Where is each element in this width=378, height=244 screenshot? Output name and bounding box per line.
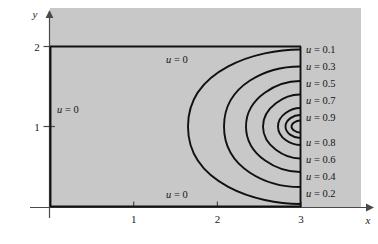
contour-label-0.2: u = 0.2 (306, 188, 336, 199)
contour-label-0.8: u = 0.8 (306, 137, 336, 148)
contour-label-0.1: u = 0.1 (306, 44, 336, 55)
y-tick-label-1: 1 (34, 121, 40, 133)
boundary-label-left-rest: = 0 (62, 104, 78, 115)
contour-plot-svg: y x 1 2 3 1 2 u = 0 u = 0 u = 0 u = 0.1 … (0, 0, 378, 244)
contour-label-0.4: u = 0.4 (306, 171, 336, 182)
y-axis-label: y (32, 8, 38, 20)
x-tick-label-1: 1 (131, 213, 137, 225)
contour-label-0.5: u = 0.5 (306, 78, 336, 89)
y-tick-label-2: 2 (34, 41, 40, 53)
contour-label-0.7: u = 0.7 (306, 95, 336, 106)
contour-label-0.8-rest: = 0.8 (311, 137, 335, 148)
boundary-label-top-rest: = 0 (171, 54, 187, 65)
x-axis-label: x (365, 214, 371, 226)
boundary-label-bottom-rest: = 0 (171, 189, 187, 200)
contour-label-0.7-rest: = 0.7 (311, 95, 335, 106)
contour-label-0.2-rest: = 0.2 (311, 188, 335, 199)
contour-label-0.1-rest: = 0.1 (311, 44, 335, 55)
contour-plot-figure: y x 1 2 3 1 2 u = 0 u = 0 u = 0 u = 0.1 … (0, 0, 378, 244)
contour-label-0.9: u = 0.9 (306, 112, 336, 123)
contour-label-0.9-rest: = 0.9 (311, 112, 335, 123)
contour-label-0.6: u = 0.6 (306, 154, 336, 165)
contour-label-0.3-rest: = 0.3 (311, 61, 335, 72)
x-tick-label-3: 3 (298, 213, 304, 225)
boundary-label-bottom: u = 0 (166, 189, 188, 200)
boundary-label-left: u = 0 (57, 104, 79, 115)
x-tick-label-2: 2 (215, 213, 221, 225)
contour-label-0.3: u = 0.3 (306, 61, 336, 72)
boundary-label-top: u = 0 (166, 54, 188, 65)
contour-label-0.4-rest: = 0.4 (311, 171, 336, 182)
contour-label-0.6-rest: = 0.6 (311, 154, 335, 165)
contour-label-0.5-rest: = 0.5 (311, 78, 335, 89)
x-axis-arrow-icon (366, 204, 374, 212)
